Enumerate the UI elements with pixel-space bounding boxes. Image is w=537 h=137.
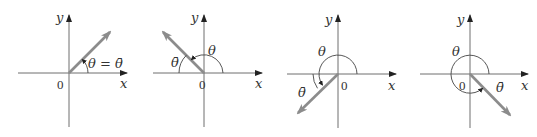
terminal-side-ray (163, 32, 204, 73)
x-axis-label: x (255, 76, 263, 91)
ref-angle-arc (313, 74, 318, 88)
x-axis-label: x (120, 76, 128, 91)
ref-angle-label: θ̄ (496, 80, 504, 95)
terminal-side-ray (470, 74, 510, 115)
x-axis-label: x (388, 78, 396, 93)
panel-quadrant-2: y x 0 θ θ̄ (153, 10, 263, 127)
panel-quadrant-1: y x 0 θ = θ̄ (18, 10, 128, 127)
x-axis-label: x (521, 78, 529, 93)
y-axis-label: y (55, 10, 64, 25)
y-axis-label: y (190, 10, 199, 25)
ref-angle-arc (179, 55, 186, 73)
ref-angle-label: θ̄ (171, 55, 179, 70)
panel-quadrant-4: y x 0 θ θ̄ (420, 12, 529, 128)
reference-angle-figure: y x 0 θ = θ̄ y x 0 θ θ̄ y x 0 θ θ̄ y x (0, 0, 537, 137)
origin-label: 0 (341, 78, 348, 93)
ref-angle-label: θ̄ (298, 85, 306, 100)
theta-label: θ (318, 44, 326, 59)
origin-label: 0 (459, 78, 466, 93)
origin-label: 0 (57, 77, 64, 92)
y-axis-label: y (456, 12, 465, 27)
panel-quadrant-3: y x 0 θ θ̄ (287, 12, 396, 128)
theta-equals-ref-label: θ = θ̄ (88, 56, 123, 71)
theta-label: θ (452, 44, 460, 59)
origin-label: 0 (199, 77, 206, 92)
theta-label: θ (208, 43, 216, 58)
y-axis-label: y (324, 12, 333, 27)
